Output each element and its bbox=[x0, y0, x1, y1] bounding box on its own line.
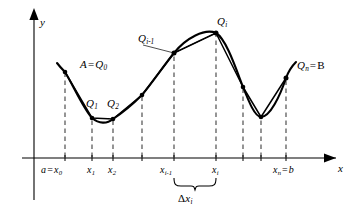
equals-sign-B: = bbox=[309, 59, 317, 71]
vertex-q0 bbox=[63, 70, 68, 75]
tick-label-xn-equals-b: xn=b bbox=[273, 165, 294, 176]
point-sub-2: 2 bbox=[115, 103, 119, 111]
point-sym-Q2: Q bbox=[107, 97, 115, 109]
point-sub-1: 1 bbox=[94, 103, 98, 111]
delta-sub-i: i bbox=[190, 198, 192, 206]
tick-sub-0: 0 bbox=[59, 169, 62, 176]
point-trail-B: B bbox=[317, 59, 325, 71]
tick-sub-i-1: i-1 bbox=[165, 169, 172, 176]
equals-sign-b: = bbox=[281, 164, 289, 175]
point-label-A-equals-Q0: A=Q0 bbox=[80, 59, 107, 72]
x-axis-arrow-icon bbox=[324, 153, 336, 162]
point-sym-Qn: Q bbox=[297, 59, 305, 71]
point-label-Qi-1: Qi-1 bbox=[138, 33, 154, 46]
point-sym-Q1: Q bbox=[86, 97, 94, 109]
tick-label-x2: x2 bbox=[108, 165, 116, 176]
vertex-qn bbox=[284, 76, 289, 81]
point-label-Qn-equals-B: Qn=B bbox=[297, 60, 325, 73]
tick-sub-2: 2 bbox=[113, 169, 116, 176]
diagram-svg bbox=[0, 0, 361, 222]
figure-canvas: y x A=Q0 Q1 Q2 Qi-1 Qi Qn=B a=x0 x1 x2 x… bbox=[0, 0, 361, 222]
point-label-Q1: Q1 bbox=[86, 98, 98, 111]
point-label-Qi: Qi bbox=[217, 16, 227, 29]
y-axis-arrow-icon bbox=[29, 8, 38, 20]
x-axis-label: x bbox=[338, 163, 343, 174]
vertex-qi-1 bbox=[172, 51, 177, 56]
tick-sub-1: 1 bbox=[92, 169, 95, 176]
tick-sub-i: i bbox=[217, 169, 219, 176]
point-sym-Qi: Q bbox=[217, 15, 225, 27]
tick-label-a-equals-x0: a=x0 bbox=[41, 165, 62, 176]
point-sub-i: i bbox=[225, 21, 227, 29]
y-axis-label: y bbox=[40, 17, 45, 28]
point-sub-i-1: i-1 bbox=[146, 38, 154, 46]
vertex-q2 bbox=[111, 117, 116, 122]
tick-label-xi-1: xi-1 bbox=[160, 165, 172, 176]
tick-trail-b: b bbox=[289, 164, 294, 175]
vertex-qi bbox=[214, 31, 219, 36]
point-lead-A: A bbox=[80, 58, 87, 70]
tick-label-x1: x1 bbox=[87, 165, 95, 176]
equals-sign-x0: = bbox=[46, 164, 54, 175]
vertex-qi+1 bbox=[241, 85, 246, 90]
point-label-Q2: Q2 bbox=[107, 98, 119, 111]
inscribed-polygon bbox=[65, 33, 286, 119]
vertex-q3 bbox=[140, 93, 145, 98]
point-sub-0: 0 bbox=[103, 64, 107, 72]
point-sym-Qi-1: Q bbox=[138, 32, 146, 44]
tick-label-xi: xi bbox=[212, 165, 218, 176]
vertex-q1 bbox=[90, 116, 95, 121]
vertex-qi+2 bbox=[259, 115, 264, 120]
delta-brace bbox=[174, 178, 216, 190]
delta-x-label: Δxi bbox=[178, 193, 192, 206]
